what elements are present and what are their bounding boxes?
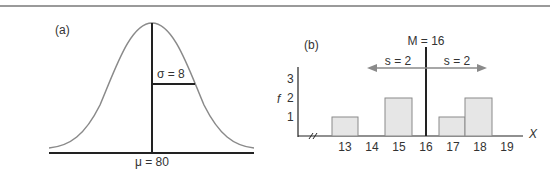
s-right-label: s = 2	[444, 54, 471, 68]
x-axis-label: X	[528, 127, 538, 141]
mu-label: μ = 80	[135, 155, 169, 169]
y-tick: 1	[287, 110, 294, 124]
sigma-label: σ = 8	[157, 67, 185, 81]
arrow-right-icon	[477, 64, 487, 72]
bar-13	[332, 117, 358, 136]
s-left-label: s = 2	[385, 54, 412, 68]
mean-label: M = 16	[407, 34, 444, 48]
x-tick: 13	[338, 140, 352, 154]
panel-b-label: (b)	[304, 38, 319, 52]
panel-a-label: (a)	[55, 23, 70, 37]
y-tick: 2	[287, 91, 294, 105]
x-tick: 15	[392, 140, 406, 154]
bar-18	[465, 98, 492, 136]
x-tick: 14	[365, 140, 379, 154]
y-tick: 3	[287, 72, 294, 86]
x-tick: 18	[473, 140, 487, 154]
bar-17	[439, 117, 465, 136]
panel-b: (b) f X 1 2 3 13 14 15 16 17 18 19 M = 1…	[277, 34, 538, 154]
x-tick: 19	[500, 140, 514, 154]
arrow-left-icon	[367, 64, 377, 72]
panel-a: (a) σ = 8 μ = 80	[49, 23, 254, 169]
figure: (a) σ = 8 μ = 80 (b) f X 1 2 3 13 14 15 …	[0, 0, 550, 175]
x-tick: 16	[419, 140, 433, 154]
x-tick: 17	[446, 140, 460, 154]
bar-15	[385, 98, 412, 136]
y-axis-label: f	[277, 92, 282, 106]
